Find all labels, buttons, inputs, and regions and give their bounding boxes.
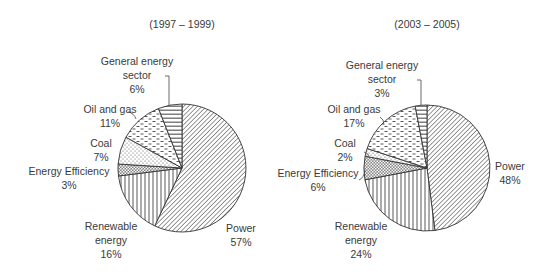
left-label-general: General energy [101,55,174,67]
left-label-energy-efficiency: Energy Efficiency [29,165,111,177]
right-label-general: General energy [346,59,419,71]
right-pct-renewable: 24% [350,248,371,260]
left-pct-oil: 11% [100,117,120,129]
left-pct-coal: 7% [93,151,108,163]
right-label-power: Power [495,160,525,172]
right-label-coal: Coal [334,137,356,149]
right-pct-oil: 17% [343,117,364,129]
left-label-renewable: Renewable [85,220,138,232]
right-label-general-l2: sector [368,73,397,85]
right-slice-power [427,105,490,231]
right-label-renewable-l2: energy [345,234,378,246]
right-pie [364,105,490,231]
left-pct-power: 57% [230,236,251,248]
left-label-oil: Oil and gas [83,103,136,115]
left-pct-renewable: 16% [100,248,121,260]
right-pct-power: 48% [499,174,520,186]
left-label-power: Power [226,222,256,234]
right-pct-general: 3% [374,87,389,99]
left-label-renewable-l2: energy [95,234,128,246]
right-label-renewable: Renewable [335,220,388,232]
left-label-general-l2: sector [123,69,152,81]
chart-canvas: (1997 – 1999) General energy sector 6% O… [0,0,553,275]
right-label-energy-efficiency: Energy Efficiency [278,167,360,179]
right-label-oil: Oil and gas [327,103,380,115]
right-chart-title: (2003 – 2005) [394,18,459,30]
left-leader-general [165,76,169,105]
left-pie [118,104,246,232]
right-pct-energy-efficiency: 6% [310,181,325,193]
left-chart-title: (1997 – 1999) [149,18,214,30]
left-pct-energy-efficiency: 3% [61,179,76,191]
left-label-coal: Coal [90,137,112,149]
right-pct-coal: 2% [337,151,352,163]
left-pct-general: 6% [129,83,144,95]
right-leader-general [417,80,421,105]
